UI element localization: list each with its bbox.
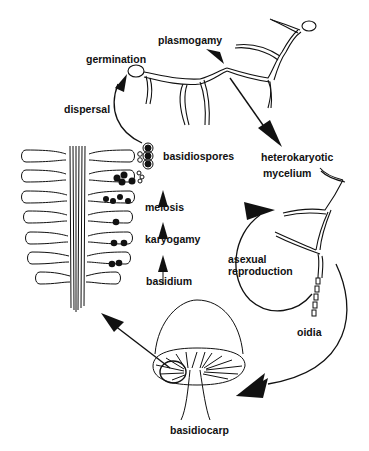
label-heterokaryotic: heterokaryotic — [261, 151, 333, 163]
label-basidium: basidium — [146, 275, 192, 287]
label-basidiospores: basidiospores — [163, 150, 234, 162]
label-reproduction: reproduction — [228, 265, 293, 277]
primary-mycelium — [128, 65, 227, 125]
plasmogamy-arrowhead — [206, 49, 224, 64]
oidia-chain — [312, 278, 320, 316]
label-oidia: oidia — [297, 326, 322, 338]
basidiocarp-drawing — [153, 300, 245, 420]
label-mycelium: mycelium — [263, 167, 311, 179]
asexual-mycelium — [275, 168, 345, 278]
label-plasmogamy: plasmogamy — [158, 34, 222, 46]
arc-to-basidiocarp — [268, 264, 347, 384]
life-cycle-diagram — [0, 0, 369, 451]
label-dispersal: dispersal — [64, 103, 110, 115]
label-asexual: asexual — [228, 253, 267, 265]
label-karyogamy: karyogamy — [145, 233, 200, 245]
label-basidiocarp: basidiocarp — [170, 424, 229, 436]
hymenium — [22, 146, 135, 312]
basidiospores-cluster — [137, 143, 153, 183]
label-meiosis: meiosis — [145, 201, 184, 213]
dispersal-arc — [114, 84, 142, 143]
secondary-mycelium — [227, 19, 316, 108]
label-germination: germination — [86, 53, 146, 65]
